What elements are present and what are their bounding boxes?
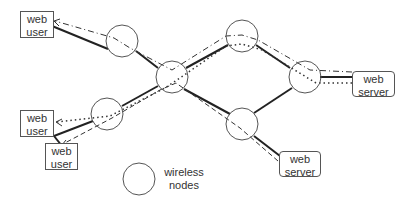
box-label-line2: user (21, 125, 53, 138)
web-user-box-2: web user (20, 110, 54, 137)
flow-dashed (63, 83, 278, 161)
box-label-line1: web (353, 73, 394, 86)
legend-line2: nodes (160, 179, 208, 192)
node-d (289, 61, 321, 93)
web-server-box-2: web server (279, 151, 321, 177)
node-a (106, 25, 138, 57)
node-b (156, 61, 188, 93)
legend-line1: wireless (160, 166, 208, 179)
box-label-line2: server (280, 166, 320, 179)
legend-label: wireless nodes (160, 166, 208, 192)
box-label-line2: server (353, 86, 394, 99)
box-label-line1: web (21, 13, 53, 26)
flow-dotted (56, 44, 352, 122)
web-user-box-3: web user (45, 143, 78, 170)
box-label-line1: web (280, 153, 320, 166)
box-label-line2: user (46, 158, 77, 171)
web-server-box-1: web server (352, 71, 395, 97)
legend-node-icon (123, 163, 155, 195)
box-label-line1: web (21, 112, 53, 125)
web-user-box-1: web user (20, 11, 54, 38)
node-e (226, 108, 258, 140)
solid-links (52, 26, 352, 156)
box-label-line1: web (46, 145, 77, 158)
box-label-line2: user (21, 26, 53, 39)
arrowheads (54, 19, 68, 146)
